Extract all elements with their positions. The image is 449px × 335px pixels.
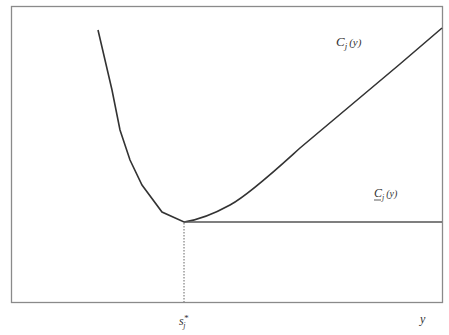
- cost-curve-diagram: Cj(y) Cj(y) s*j y: [0, 0, 449, 335]
- plot-frame: [12, 7, 443, 303]
- x-tick-label-s-star-j: s*j: [179, 313, 189, 330]
- upper-curve-label: Cj(y): [336, 34, 362, 51]
- x-axis-label: y: [419, 312, 426, 326]
